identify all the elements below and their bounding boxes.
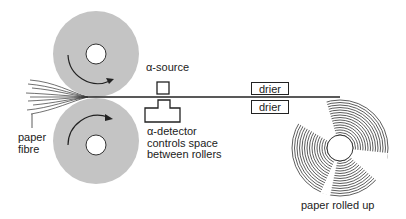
diagram-canvas (0, 0, 406, 219)
paper-rolled-up-label: paper rolled up (301, 199, 374, 211)
alpha-detector-label-line1: α-detector (147, 126, 222, 138)
alpha-detector-shape (145, 100, 180, 122)
paper-fibre-label-line2: fibre (18, 143, 46, 155)
drier-top-box: drier (251, 82, 289, 95)
top-roller (53, 11, 139, 97)
alpha-source-box (157, 82, 169, 94)
paper-fibre-label: paper fibre (18, 131, 46, 155)
alpha-source-label: α-source (146, 61, 189, 73)
drier-bottom-box: drier (251, 100, 289, 114)
bottom-roller (53, 98, 139, 184)
alpha-detector-label: α-detector controls space between roller… (147, 126, 222, 161)
paper-fibre-label-line1: paper (18, 131, 46, 143)
alpha-detector-label-line3: between rollers (147, 149, 222, 161)
